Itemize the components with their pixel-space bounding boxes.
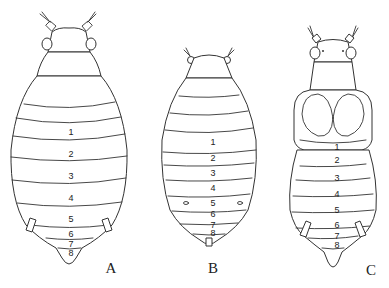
specimen-a-drawing <box>11 12 127 264</box>
figure-label-b: B <box>208 261 218 276</box>
segment-label-a-2: 2 <box>68 150 73 159</box>
figure-label-c: C <box>366 263 376 278</box>
segment-label-b-2: 2 <box>210 154 215 163</box>
segment-label-c-4: 4 <box>334 190 339 199</box>
segment-label-c-5: 5 <box>334 206 339 215</box>
segment-label-a-3: 3 <box>68 172 73 181</box>
segment-label-a-8: 8 <box>68 249 73 258</box>
segment-label-b-4: 4 <box>210 184 215 193</box>
segment-label-b-6: 6 <box>210 210 215 219</box>
segment-label-c-2: 2 <box>334 156 339 165</box>
line-drawings <box>0 0 389 288</box>
segment-label-a-5: 5 <box>68 215 73 224</box>
segment-label-a-6: 6 <box>68 230 73 239</box>
specimen-b-drawing <box>162 48 257 246</box>
segment-label-a-1: 1 <box>68 128 73 137</box>
segment-label-c-3: 3 <box>334 174 339 183</box>
segment-label-b-5: 5 <box>210 199 215 208</box>
specimen-c-drawing <box>290 26 377 267</box>
segment-label-b-3: 3 <box>210 169 215 178</box>
segment-label-a-4: 4 <box>68 194 73 203</box>
insect-diagram-figure: 1 2 3 4 5 6 7 8 A 1 2 3 4 5 6 7 8 B 1 2 … <box>0 0 389 288</box>
figure-label-a: A <box>106 261 117 276</box>
segment-label-c-6: 6 <box>334 221 339 230</box>
segment-label-c-1: 1 <box>334 143 339 152</box>
segment-label-c-8: 8 <box>334 241 339 250</box>
segment-label-b-1: 1 <box>210 138 215 147</box>
segment-label-b-8: 8 <box>210 229 215 238</box>
